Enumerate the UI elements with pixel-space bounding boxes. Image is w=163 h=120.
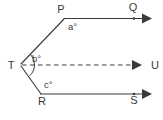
- point-label-s: S: [130, 94, 137, 106]
- arrowhead-u: [132, 60, 142, 70]
- angle-label-b: b°: [32, 53, 41, 64]
- arrowhead-s: [142, 89, 152, 99]
- point-label-u: U: [151, 59, 159, 71]
- angle-label-a: a°: [68, 21, 77, 32]
- point-label-t: T: [8, 59, 15, 71]
- segment-tr: [21, 66, 41, 94]
- segment-tp: [21, 19, 64, 64]
- point-dot-q: [133, 17, 136, 20]
- geometry-diagram: P T R Q U S a° b° c°: [0, 0, 163, 120]
- angle-label-c: c°: [44, 79, 53, 90]
- angle-arc-t-lower: [30, 65, 35, 76]
- point-label-p: P: [57, 3, 64, 15]
- arrowhead-q: [142, 14, 152, 24]
- point-label-q: Q: [129, 1, 138, 13]
- point-label-r: R: [38, 95, 46, 107]
- diagram-canvas: P T R Q U S a° b° c°: [0, 0, 163, 120]
